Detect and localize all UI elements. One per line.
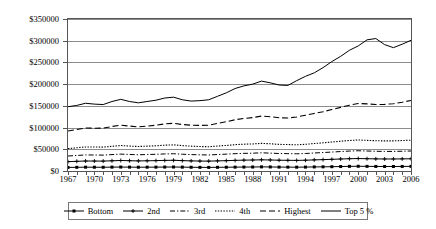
data-point-marker [137,166,140,169]
data-point-marker [68,160,70,164]
data-point-marker [269,165,272,168]
data-point-marker [357,165,360,168]
y-tick-label: $100000 [29,123,59,132]
data-point-marker [321,158,325,162]
legend-swatch-dotted [214,207,236,215]
data-point-marker [348,165,351,168]
x-tick-label: 1973 [112,174,129,184]
data-point-marker [313,165,316,168]
data-point-marker [119,166,122,169]
x-tick-label: 1982 [191,174,208,184]
legend-item-4th[interactable]: 4th [214,207,250,216]
data-point-marker [312,158,316,162]
data-point-marker [339,165,342,168]
legend-swatch-solid-square-marker [63,207,85,215]
data-point-marker [356,157,360,161]
data-point-marker [110,159,114,163]
y-tick-label: $250000 [29,58,59,67]
data-point-marker [84,166,87,169]
legend-swatch-dashed [259,207,281,215]
data-point-marker [383,165,386,168]
legend-label: 3rd [194,207,205,216]
y-tick-label: $200000 [29,80,59,89]
data-point-marker [365,157,369,161]
data-point-marker [410,165,412,168]
data-point-marker [198,159,202,163]
legend-label: Top 5 % [345,207,374,216]
data-point-marker [295,166,298,169]
data-point-marker [163,166,166,169]
income-quintile-line-chart: $0$50000$100000$150000$200000$250000$300… [0,0,436,229]
legend-label: 2nd [147,207,160,216]
data-point-marker [330,157,334,161]
data-point-marker [207,166,210,169]
data-point-marker [409,157,411,161]
data-point-marker [75,166,78,169]
plot-area [67,18,412,172]
legend-item-bottom[interactable]: Bottom [63,207,114,216]
data-point-marker [277,158,281,162]
data-point-marker [347,157,351,161]
x-tick-label: 2006 [403,174,420,184]
data-point-marker [330,165,333,168]
y-axis: $0$50000$100000$150000$200000$250000$300… [0,0,67,190]
data-point-marker [401,165,404,168]
x-tick-label: 2000 [350,174,367,184]
data-point-marker [128,159,132,163]
data-point-marker [322,165,325,168]
data-point-marker [101,159,105,163]
chart-legend: Bottom2nd3rd4thHighestTop 5 % [68,202,368,220]
data-point-marker [295,158,299,162]
data-point-marker [374,165,377,168]
x-tick-label: 1967 [60,174,77,184]
legend-item-highest[interactable]: Highest [259,207,310,216]
legend-item-3rd[interactable]: 3rd [169,207,205,216]
data-point-marker [110,166,113,169]
data-point-marker [392,165,395,168]
data-point-marker [128,166,131,169]
data-point-marker [225,166,228,169]
data-point-marker [374,157,378,161]
x-tick-label: 1988 [244,174,261,184]
legend-label: Bottom [88,207,114,216]
data-point-marker [259,158,263,162]
data-point-marker [198,166,201,169]
x-tick-label: 2003 [376,174,393,184]
data-point-marker [146,166,149,169]
series-line-top-5 [68,39,411,107]
legend-label: Highest [284,207,310,216]
data-point-marker [189,159,193,163]
data-point-marker [172,158,176,162]
data-point-marker [233,158,237,162]
data-point-marker [216,166,219,169]
data-point-marker [172,166,175,169]
data-point-marker [251,166,254,169]
data-point-marker [180,159,184,163]
legend-swatch-solid-plus-marker [122,207,144,215]
x-tick-label: 1994 [297,174,314,184]
data-point-marker [304,166,307,169]
data-point-marker [190,166,193,169]
data-point-marker [163,158,167,162]
data-point-marker [383,157,387,161]
x-tick-label: 1979 [165,174,182,184]
data-point-marker [102,166,105,169]
series-line-3rd [68,151,411,156]
legend-item-2nd[interactable]: 2nd [122,207,160,216]
x-tick-label: 1985 [218,174,235,184]
data-point-marker [391,157,395,161]
data-point-marker [242,158,246,162]
data-point-marker [216,159,220,163]
data-point-marker [286,166,289,169]
data-point-marker [181,166,184,169]
data-point-marker [145,159,149,163]
data-point-marker [251,158,255,162]
x-axis: 1967197019731976197919821985198819911994… [0,174,436,190]
legend-item-top-5[interactable]: Top 5 % [320,207,374,216]
data-point-marker [75,159,79,163]
data-point-marker [242,166,245,169]
data-point-marker [268,158,272,162]
y-tick-label: $300000 [29,36,59,45]
x-tick-label: 1997 [323,174,340,184]
data-point-marker [400,157,404,161]
